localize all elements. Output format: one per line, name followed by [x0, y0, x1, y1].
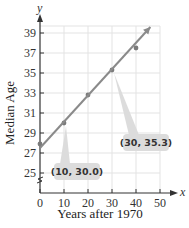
y-tick-label: 29 [24, 126, 36, 140]
callout-pointer [60, 126, 70, 164]
axis-break-icon [37, 177, 43, 183]
x-axis-arrow-icon [170, 190, 178, 196]
callout-label: (10, 30.0) [51, 166, 103, 177]
data-point [134, 46, 139, 51]
x-axis-title: Years after 1970 [57, 206, 142, 221]
y-axis-variable: y [36, 1, 43, 15]
y-tick-label: 37 [24, 46, 36, 60]
x-tick-label: 0 [37, 196, 43, 210]
x-tick-label: 50 [154, 196, 166, 210]
x-axis-variable: x [179, 185, 186, 199]
y-tick-label: 39 [24, 26, 36, 40]
y-tick-label: 25 [24, 166, 36, 180]
callout-label: (30, 35.3) [120, 137, 172, 148]
tick-labels: 010203040502527293133353739 [24, 26, 166, 210]
y-tick-label: 33 [24, 86, 36, 100]
y-axis-arrow-icon [37, 14, 43, 22]
y-tick-label: 27 [24, 146, 36, 160]
y-tick-label: 31 [24, 106, 36, 120]
callout-pointer [114, 73, 139, 135]
chart: 010203040502527293133353739 (10, 30.0)(3… [0, 0, 189, 228]
y-axis-title: Median Age [2, 81, 17, 145]
y-tick-label: 35 [24, 66, 36, 80]
